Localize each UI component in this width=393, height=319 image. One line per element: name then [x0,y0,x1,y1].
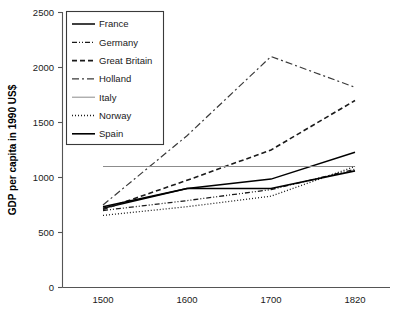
x-tick-label-1600: 1600 [176,294,197,305]
legend-label-france: France [99,18,129,29]
y-axis-title: GDP per capita in 1990 US$ [7,84,18,215]
y-tick-label-1500: 1500 [33,117,54,128]
x-tick-label-1700: 1700 [260,294,281,305]
y-tick-label-1000: 1000 [33,172,54,183]
x-tick-label-1500: 1500 [92,294,113,305]
y-tick-label-500: 500 [38,227,54,238]
chart-figure: 0 500 1000 1500 2000 2500 1500 1600 1700… [0,0,393,319]
series-line-germany [103,169,355,210]
line-chart-canvas: 0 500 1000 1500 2000 2500 1500 1600 1700… [0,0,393,319]
x-tick-label-1820: 1820 [344,294,365,305]
y-tick-label-0: 0 [49,282,54,293]
legend-label-germany: Germany [99,37,138,48]
legend-label-italy: Italy [99,92,117,103]
y-axis-tickmarks [58,13,63,288]
legend-label-great-britain: Great Britain [99,55,152,66]
legend-label-spain: Spain [99,128,123,139]
y-tick-label-2500: 2500 [33,7,54,18]
legend-label-norway: Norway [99,110,131,121]
y-tick-label-2000: 2000 [33,62,54,73]
legend-label-holland: Holland [99,73,131,84]
series-line-france [103,152,355,208]
